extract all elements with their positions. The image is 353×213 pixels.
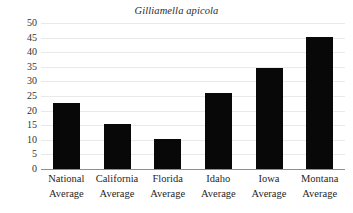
y-tick-label: 45 [0, 33, 37, 43]
chart-title: Gilliamella apicola [0, 4, 353, 17]
x-tick-label-line: Montana [294, 171, 345, 186]
x-tick-label-line: Average [244, 186, 295, 201]
bar-chart-figure: Gilliamella apicola 50454035302520151050… [0, 0, 353, 213]
x-tick-label-line: Average [41, 186, 92, 201]
y-tick-label: 20 [0, 106, 37, 116]
x-tick-label: IdahoAverage [193, 171, 244, 201]
x-tick-label-line: Average [193, 186, 244, 201]
x-tick-label-line: Florida [142, 171, 193, 186]
x-tick-label-line: Average [92, 186, 143, 201]
axis-baseline [41, 169, 345, 170]
y-tick-label: 50 [0, 18, 37, 28]
bar [104, 124, 131, 169]
x-tick-label-line: California [92, 171, 143, 186]
y-tick-label: 30 [0, 76, 37, 86]
x-tick-label-line: Idaho [193, 171, 244, 186]
x-tick-label-line: National [41, 171, 92, 186]
y-tick-label: 10 [0, 135, 37, 145]
bar [205, 93, 232, 169]
x-tick-label-line: Average [142, 186, 193, 201]
y-axis: 50454035302520151050 [0, 23, 37, 169]
y-tick-label: 0 [0, 164, 37, 174]
y-tick-label: 15 [0, 120, 37, 130]
x-tick-label-line: Average [294, 186, 345, 201]
x-axis: NationalAverageCaliforniaAverageFloridaA… [41, 171, 345, 213]
bars-layer [41, 23, 345, 169]
x-tick-label-line: Iowa [244, 171, 295, 186]
x-tick-label: CaliforniaAverage [92, 171, 143, 201]
y-tick-label: 5 [0, 149, 37, 159]
bar [306, 37, 333, 169]
x-tick-label: IowaAverage [244, 171, 295, 201]
bar [154, 139, 181, 169]
x-tick-label: NationalAverage [41, 171, 92, 201]
y-tick-label: 40 [0, 47, 37, 57]
y-tick-label: 25 [0, 91, 37, 101]
bar [53, 103, 80, 169]
x-tick-label: MontanaAverage [294, 171, 345, 201]
bar [256, 68, 283, 169]
y-tick-label: 35 [0, 62, 37, 72]
x-tick-label: FloridaAverage [142, 171, 193, 201]
